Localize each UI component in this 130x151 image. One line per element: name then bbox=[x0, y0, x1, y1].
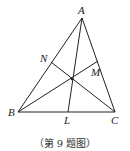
label-a: A bbox=[77, 4, 85, 16]
label-l: L bbox=[63, 114, 70, 126]
side-ca bbox=[82, 18, 115, 112]
label-n: N bbox=[39, 52, 48, 64]
label-c: C bbox=[111, 114, 119, 126]
figure-caption: （第 9 题图） bbox=[0, 135, 130, 150]
intersection-point bbox=[71, 78, 74, 81]
triangle-diagram: A B C L M N bbox=[0, 0, 130, 151]
cevian-cn bbox=[51, 62, 115, 112]
label-m: M bbox=[90, 66, 101, 78]
label-b: B bbox=[8, 106, 15, 118]
side-ab bbox=[18, 18, 82, 112]
cevian-bm bbox=[18, 61, 98, 112]
cevian-al bbox=[68, 18, 82, 112]
